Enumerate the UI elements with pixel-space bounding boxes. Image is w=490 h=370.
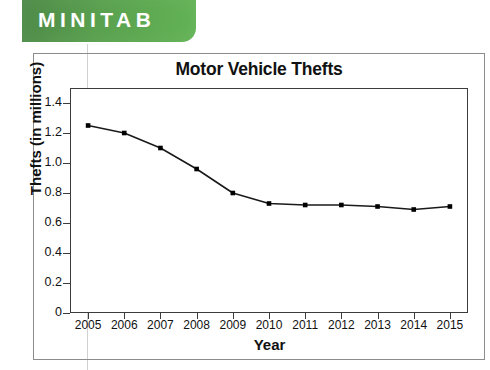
x-tick-label: 2012: [321, 318, 361, 332]
x-tick-label: 2010: [249, 318, 289, 332]
x-tick-label: 2007: [140, 318, 180, 332]
data-point: [267, 201, 272, 206]
series-line: [88, 126, 450, 210]
x-tick-label: 2015: [430, 318, 470, 332]
x-tick-label: 2013: [358, 318, 398, 332]
data-point: [122, 131, 127, 136]
x-tick-label: 2009: [213, 318, 253, 332]
data-series-layer: [70, 88, 468, 313]
data-point: [448, 204, 453, 209]
data-point: [375, 204, 380, 209]
data-point: [86, 123, 91, 128]
data-point: [339, 203, 344, 208]
x-tick-label: 2006: [104, 318, 144, 332]
data-point: [231, 191, 236, 196]
data-point: [158, 146, 163, 151]
data-point: [303, 203, 308, 208]
x-tick-label: 2014: [394, 318, 434, 332]
series-markers: [86, 123, 452, 212]
x-tick-label: 2011: [285, 318, 325, 332]
data-point: [194, 167, 199, 172]
data-point: [411, 207, 416, 212]
x-tick-label: 2005: [68, 318, 108, 332]
x-tick-label: 2008: [177, 318, 217, 332]
